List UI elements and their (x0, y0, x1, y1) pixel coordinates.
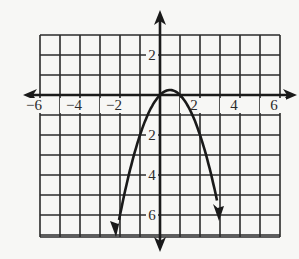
y-tick-label: 2 (148, 47, 156, 63)
x-tick-label: −6 (26, 97, 42, 113)
x-tick-label: −4 (66, 97, 82, 113)
coordinate-plane: −6−4−22462246 (0, 0, 299, 259)
x-tick-label: 4 (230, 97, 238, 113)
x-tick-label: 6 (270, 97, 278, 113)
x-tick-label: −2 (106, 97, 122, 113)
y-tick-label: 4 (148, 167, 156, 183)
y-tick-label: 2 (148, 127, 156, 143)
y-tick-label: 6 (148, 207, 156, 223)
